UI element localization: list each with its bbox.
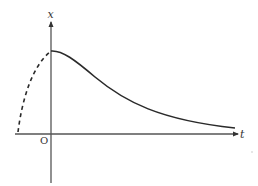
solid-decay-curve (51, 51, 235, 128)
artifact-dot (251, 151, 252, 152)
graph-canvas: x t O (0, 0, 258, 186)
origin-label: O (40, 135, 48, 146)
dashed-rising-curve (18, 51, 51, 132)
x-axis-label: x (48, 8, 55, 21)
t-axis-label: t (240, 128, 245, 141)
